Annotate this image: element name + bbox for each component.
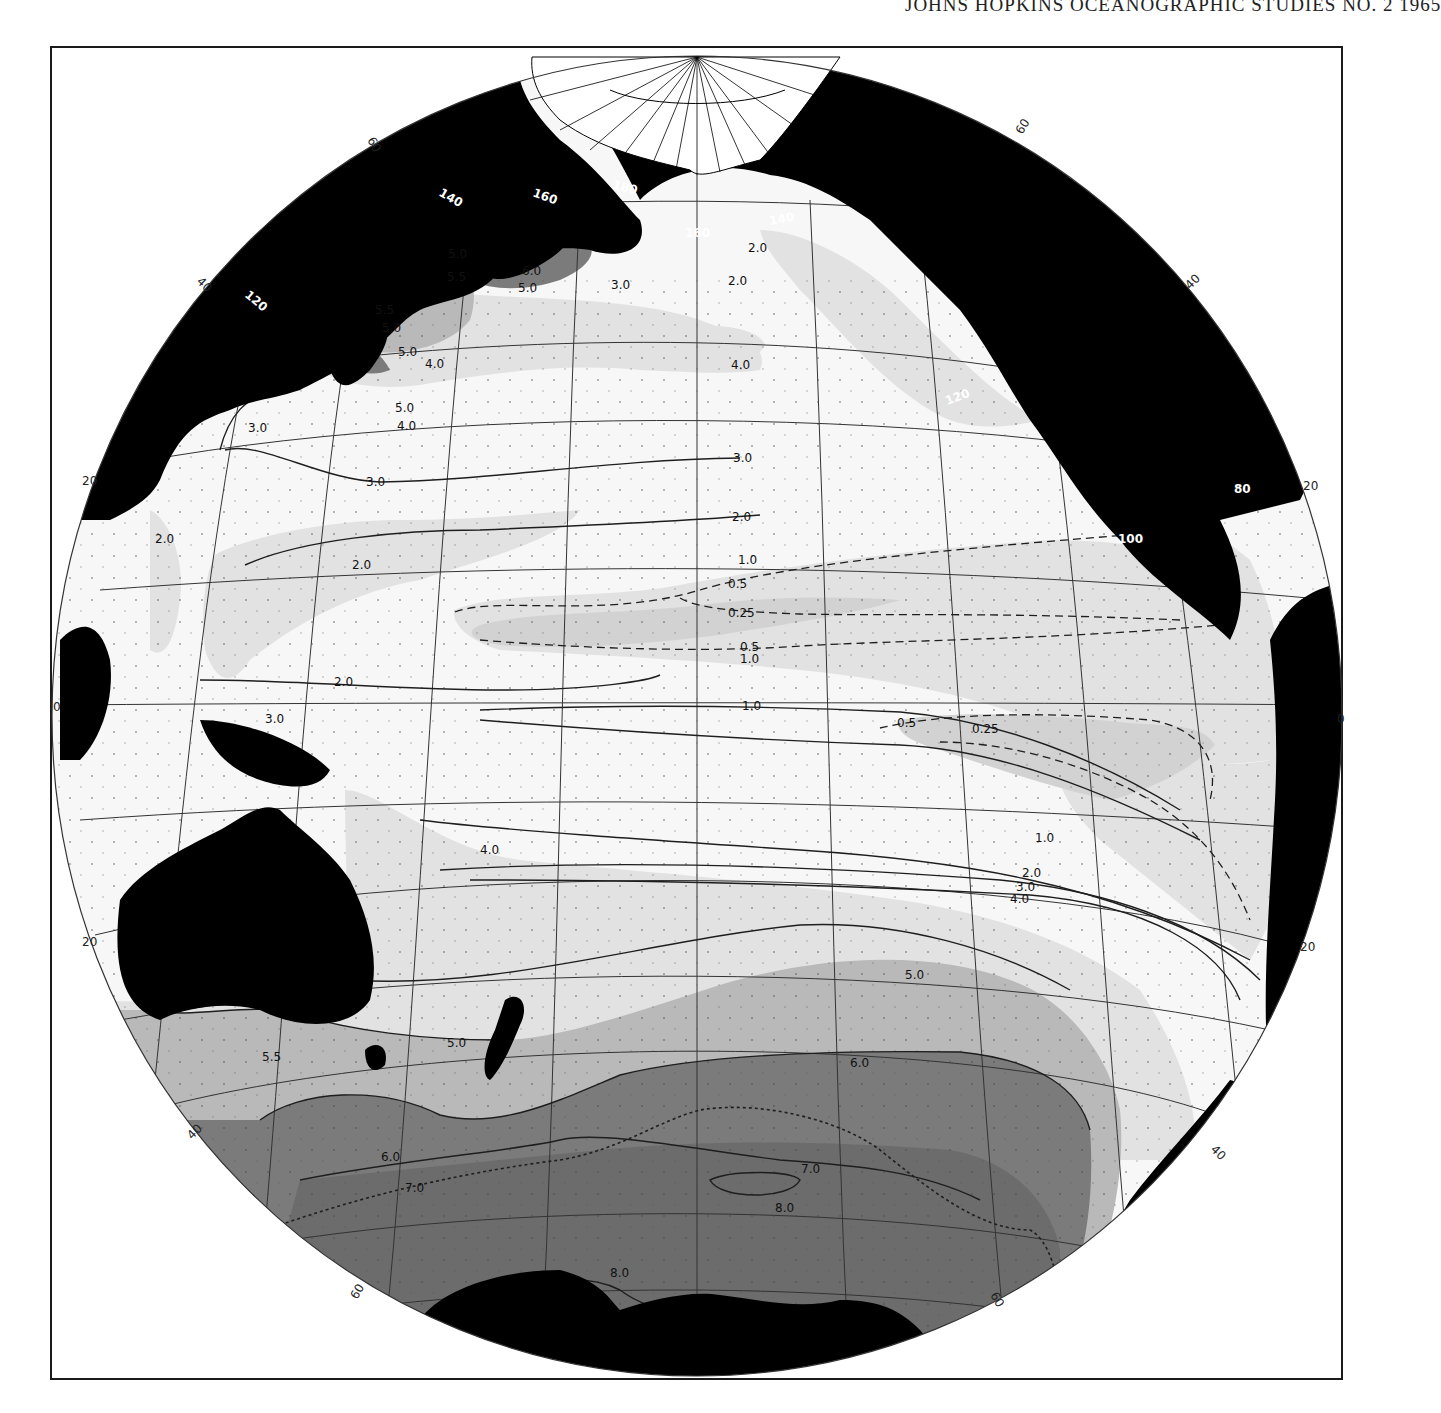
contour-label: 5.5 [375, 303, 394, 317]
contour-label: 5.5 [447, 270, 466, 284]
contour-label: 5.0 [518, 281, 537, 295]
contour-label: 7.0 [801, 1162, 820, 1176]
contour-label: 0.25 [728, 606, 755, 620]
contour-label: 4.0 [480, 843, 499, 857]
contour-label: 5.0 [448, 247, 467, 261]
contour-label: 3.0 [265, 712, 284, 726]
contour-label: 1.0 [1035, 831, 1054, 845]
contour-label: 3.0 [733, 451, 752, 465]
contour-label: 8.0 [610, 1266, 629, 1280]
contour-label: 1.0 [740, 652, 759, 666]
lat-label-0-right: 0 [1337, 712, 1345, 726]
contour-label: 2.0 [352, 558, 371, 572]
contour-label: 8.0 [775, 1201, 794, 1215]
contour-label: 7.0 [405, 1181, 424, 1195]
ocean-disc [40, 40, 1350, 1400]
contour-label: 4.0 [1010, 892, 1029, 906]
contour-label: 0.5 [728, 577, 747, 591]
contour-label: 2.0 [728, 274, 747, 288]
lat-label-0-left: 0 [53, 700, 61, 714]
contour-label: 1.0 [738, 553, 757, 567]
contour-label: 2.0 [732, 510, 751, 524]
contour-label: 2.0 [1022, 866, 1041, 880]
contour-label: 5.0 [398, 345, 417, 359]
lat-label-20n-left: 20 [82, 474, 97, 488]
contour-label: 2.0 [334, 675, 353, 689]
contour-label: 4.0 [731, 358, 750, 372]
contour-label: 5.0 [382, 321, 401, 335]
lon-label-100w: 100 [1118, 532, 1143, 546]
contour-label: 2.0 [748, 241, 767, 255]
contour-label: 6.0 [381, 1150, 400, 1164]
contour-label: 6.0 [522, 264, 541, 278]
contour-label: 5.0 [395, 401, 414, 415]
contour-label: 5.0 [447, 1036, 466, 1050]
lat-label-20n-right: 20 [1303, 479, 1318, 493]
lon-label-80w: 80 [1234, 482, 1251, 496]
lat-label-20s-left: 20 [82, 935, 97, 949]
land-south-america [1266, 580, 1350, 1090]
lon-label-160w: 160 [685, 226, 710, 240]
contour-label: 0.5 [897, 716, 916, 730]
contour-label: 2.0 [155, 532, 174, 546]
contour-label: 4.0 [425, 357, 444, 371]
contour-label: 5.0 [905, 968, 924, 982]
lat-label-40s-right: 40 [1208, 1142, 1229, 1163]
contour-label: 0.25 [972, 722, 999, 736]
contour-label: 5.5 [262, 1050, 281, 1064]
contour-label: 3.0 [366, 475, 385, 489]
contour-label: 3.0 [611, 278, 630, 292]
contour-label: 3.0 [248, 421, 267, 435]
lat-label-20s-right: 20 [1300, 940, 1315, 954]
lat-label-60-right: 60 [1013, 116, 1033, 136]
contour-label: 6.0 [850, 1056, 869, 1070]
contour-label: 4.0 [397, 419, 416, 433]
contour-label: 1.0 [742, 699, 761, 713]
lat-label-60s-left: 60 [347, 1281, 367, 1301]
